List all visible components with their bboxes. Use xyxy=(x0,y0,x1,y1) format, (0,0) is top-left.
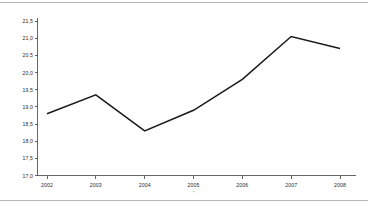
y-axis-tick-label: 20,0 xyxy=(8,70,33,76)
y-axis-tick-label: 18,5 xyxy=(8,121,33,127)
y-axis-tick-label: 18,0 xyxy=(8,138,33,144)
y-axis-tick-label: 19,5 xyxy=(8,87,33,93)
x-axis-tick-label: 2007 xyxy=(285,182,297,188)
y-axis-tick-label: 21,0 xyxy=(8,35,33,41)
y-axis-tick-label: 21,5 xyxy=(8,18,33,24)
x-axis-tick-label: 2004 xyxy=(139,182,151,188)
x-axis-tick-label: 2005 xyxy=(188,182,200,188)
y-axis-tick-label: 17,0 xyxy=(8,173,33,179)
y-axis-tick-label: 20,5 xyxy=(8,52,33,58)
chart-axes xyxy=(38,18,357,176)
footnote-marker: * xyxy=(193,190,195,195)
x-axis-tick-label: 2003 xyxy=(90,182,102,188)
data-series-line xyxy=(47,36,340,130)
chart-tick-marks xyxy=(35,21,340,179)
line-chart-plot xyxy=(0,0,368,210)
x-axis-tick-label: 2006 xyxy=(236,182,248,188)
y-axis-tick-label: 17,5 xyxy=(8,155,33,161)
x-axis-tick-label: 2002 xyxy=(41,182,53,188)
y-axis-tick-label: 19,0 xyxy=(8,104,33,110)
chart-figure: 17,017,518,018,519,019,520,020,521,021,5… xyxy=(0,0,368,210)
x-axis-tick-label: 2008 xyxy=(334,182,346,188)
chart-data-series xyxy=(47,36,340,130)
